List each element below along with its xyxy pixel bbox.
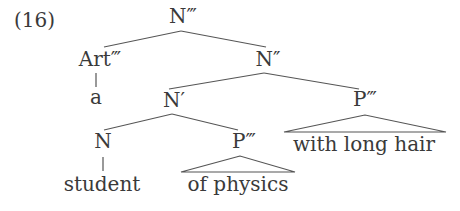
node-n: N	[94, 131, 112, 151]
triangle-of-physics	[181, 156, 295, 172]
node-n2: N″	[256, 49, 281, 69]
branch-nbar2-pouter	[264, 73, 359, 89]
syntax-tree-diagram: (16) N‴ Art‴ N″ a N′ P‴ N P‴ with long h…	[0, 0, 460, 211]
example-number: (16)	[14, 10, 55, 30]
branch-nbar2-nbar1	[169, 73, 264, 89]
branch-root-nbar2	[181, 31, 266, 47]
node-art3: Art‴	[79, 49, 121, 69]
triangle-with-long-hair	[284, 115, 446, 132]
node-root-n3: N‴	[169, 6, 197, 26]
branch-nbar1-n	[104, 114, 172, 130]
node-n1: N′	[163, 90, 185, 110]
phrase-of-physics: of physics	[188, 174, 289, 194]
phrase-with-long-hair: with long hair	[293, 134, 435, 154]
branch-root-art	[104, 31, 181, 47]
branch-nbar1-pinner	[172, 114, 238, 130]
word-a: a	[90, 87, 102, 107]
word-student: student	[64, 174, 141, 194]
node-p3-outer: P‴	[353, 89, 377, 109]
node-p3-inner: P‴	[232, 131, 256, 151]
